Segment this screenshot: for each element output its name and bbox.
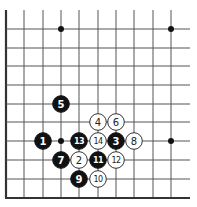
- move-number: 7: [58, 155, 65, 166]
- move-number: 2: [76, 155, 82, 166]
- stone-white-10: 10: [90, 171, 107, 188]
- stone-white-14: 14: [90, 133, 107, 150]
- move-number: 9: [76, 174, 83, 185]
- move-number: 14: [94, 137, 103, 146]
- stone-white-2: 2: [71, 152, 88, 169]
- stone-white-8: 8: [126, 133, 143, 150]
- star-point-icon: [58, 26, 64, 32]
- stone-white-6: 6: [108, 114, 125, 131]
- move-number: 1: [40, 136, 47, 147]
- stone-white-12: 12: [108, 152, 125, 169]
- move-number: 3: [113, 136, 120, 147]
- go-board: 1234567891011121314: [0, 0, 197, 207]
- move-number: 12: [112, 156, 121, 165]
- move-number: 6: [113, 117, 119, 128]
- stone-black-5: 5: [53, 96, 70, 113]
- star-point-icon: [58, 138, 64, 144]
- move-number: 4: [95, 117, 101, 128]
- stone-black-7: 7: [53, 152, 70, 169]
- grid-lines: [5, 10, 190, 198]
- stone-black-11: 11: [90, 152, 107, 169]
- star-point-icon: [168, 138, 174, 144]
- stone-white-4: 4: [90, 114, 107, 131]
- move-number: 13: [74, 137, 84, 146]
- move-number: 8: [131, 136, 137, 147]
- move-number: 5: [58, 99, 65, 110]
- stone-black-1: 1: [35, 133, 52, 150]
- move-number: 10: [94, 175, 103, 184]
- move-number: 11: [93, 156, 104, 165]
- stone-black-13: 13: [71, 133, 88, 150]
- stone-black-9: 9: [71, 171, 88, 188]
- stone-black-3: 3: [108, 133, 125, 150]
- star-point-icon: [168, 26, 174, 32]
